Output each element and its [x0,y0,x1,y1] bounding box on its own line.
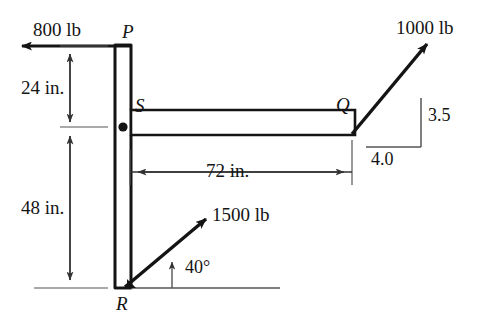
statics-diagram: 800 lb P 1000 lb 3.5 4.0 S Q 24 in. 48 i… [0,0,490,326]
dim-72-label: 72 in. [206,161,249,180]
point-label-S: S [135,96,145,115]
slope-run-label: 4.0 [371,150,394,168]
force-1000-arrow [352,44,427,134]
dim-48-label: 48 in. [21,198,64,217]
dim-24-label: 24 in. [21,78,64,97]
slope-rise-label: 3.5 [428,106,451,124]
horizontal-arm-member [131,110,355,135]
pin-support-dot [118,122,127,131]
vertical-column-member [115,45,131,288]
point-label-P: P [122,22,134,41]
point-label-R: R [116,294,128,313]
dimension-lines [34,46,352,288]
force-1000-label: 1000 lb [396,18,454,37]
angle-40-label: 40° [185,258,210,276]
point-label-Q: Q [336,95,350,114]
force-800-label: 800 lb [33,20,81,39]
force-1500-label: 1500 lb [212,205,270,224]
